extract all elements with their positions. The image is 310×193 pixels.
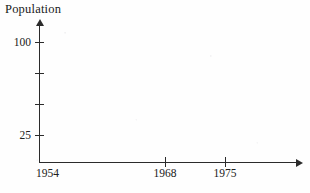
x-axis-tick bbox=[165, 157, 166, 167]
y-axis-tick-label: 100 bbox=[1, 36, 31, 48]
x-axis-tick bbox=[225, 157, 226, 167]
x-axis-tick-label: 1975 bbox=[195, 167, 255, 180]
y-axis-tick-label: 25 bbox=[1, 129, 31, 141]
y-axis-tick bbox=[35, 73, 44, 74]
x-axis-tick-label: 1968 bbox=[135, 167, 195, 180]
plot-area bbox=[40, 25, 297, 162]
y-axis-label-slot: 25 bbox=[0, 129, 31, 141]
y-axis-tick bbox=[35, 42, 44, 43]
x-axis-arrow-icon bbox=[296, 159, 303, 167]
page-title: Population bbox=[5, 1, 61, 17]
y-axis-tick bbox=[35, 135, 44, 136]
population-chart-figure: Population 100 25 1954 1968 1975 bbox=[0, 0, 310, 193]
y-axis-label-slot: 100 bbox=[0, 36, 31, 48]
y-axis-tick bbox=[35, 104, 44, 105]
x-axis-line bbox=[39, 162, 298, 163]
x-axis-tick-label: 1954 bbox=[36, 167, 96, 180]
